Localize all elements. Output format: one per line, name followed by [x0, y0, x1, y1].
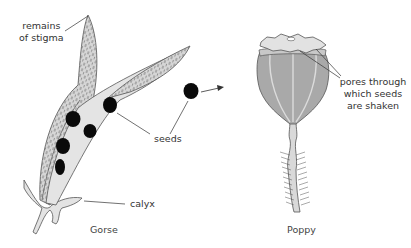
seed	[66, 111, 81, 127]
gorse-pod-front	[108, 46, 190, 98]
seed-dispersed	[184, 83, 199, 99]
label-pores: pores through which seeds are shaken	[338, 76, 408, 112]
label-calyx: calyx	[130, 198, 155, 210]
poppy-stalk	[288, 120, 300, 212]
seed	[55, 159, 65, 175]
gorse-illustration	[24, 15, 224, 234]
caption-gorse: Gorse	[90, 224, 118, 235]
label-line: pores through	[338, 76, 408, 88]
poppy-illustration	[257, 34, 341, 212]
label-line: of stigma	[19, 32, 64, 44]
label-line: remains	[19, 20, 64, 32]
seed	[84, 124, 97, 138]
seed	[103, 97, 117, 113]
seed	[56, 138, 70, 154]
label-line: which seeds	[338, 88, 408, 100]
caption-poppy: Poppy	[287, 224, 316, 235]
label-line: are shaken	[338, 100, 408, 112]
arrow-icon	[217, 85, 224, 91]
seed-dispersal-diagram: remains of stigma seeds calyx Gorse pore…	[0, 0, 411, 248]
label-remains-of-stigma: remains of stigma	[19, 20, 64, 44]
label-seeds: seeds	[154, 133, 182, 145]
